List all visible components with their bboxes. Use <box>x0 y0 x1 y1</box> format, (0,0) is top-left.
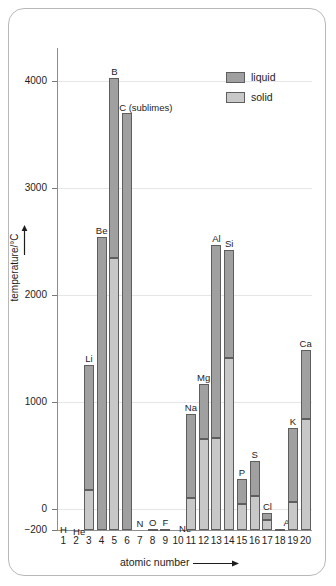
bar-segment-liquid <box>84 365 94 489</box>
bar-label-c: C (sublimes) <box>119 103 189 113</box>
y-axis-arrow-icon <box>21 225 28 255</box>
bar-si[interactable] <box>224 250 234 530</box>
x-axis-label: atomic number <box>120 556 189 568</box>
legend-swatch-solid <box>226 92 245 103</box>
bar-segment-solid <box>211 438 221 530</box>
bar-segment-solid <box>84 490 94 530</box>
y-axis-tick <box>52 402 57 403</box>
bar-segment-liquid <box>122 113 132 530</box>
bar-label-s: S <box>242 450 268 460</box>
gridline <box>57 188 312 189</box>
bar-b[interactable] <box>109 78 119 530</box>
bar-p[interactable] <box>237 479 247 530</box>
bar-s[interactable] <box>250 461 260 530</box>
bar-segment-liquid <box>250 461 260 496</box>
chart-plot-area: temperature/°C atomic number −2000100020… <box>0 0 336 586</box>
y-axis-tick-label: −200 <box>5 525 47 535</box>
bar-segment-solid <box>199 439 209 530</box>
bar-segment-liquid <box>262 513 272 520</box>
y-axis-tick <box>52 81 57 82</box>
bar-ar[interactable] <box>275 529 285 530</box>
y-axis-tick <box>52 509 57 510</box>
bar-li[interactable] <box>84 365 94 530</box>
bar-segment-solid <box>262 520 272 530</box>
bar-segment-liquid <box>97 237 107 530</box>
bar-c[interactable] <box>122 113 132 530</box>
y-axis-tick-label: 3000 <box>5 183 47 193</box>
y-axis-tick-label: 2000 <box>5 290 47 300</box>
bar-be[interactable] <box>97 237 107 530</box>
bar-segment-liquid <box>224 250 234 358</box>
y-axis-tick-label: 0 <box>5 504 47 514</box>
bar-segment-liquid <box>186 414 196 499</box>
legend-label-liquid: liquid <box>251 72 276 83</box>
bar-label-cl: Cl <box>254 502 280 512</box>
y-axis-tick-label: 4000 <box>5 76 47 86</box>
bar-label-ca: Ca <box>293 339 319 349</box>
bar-k[interactable] <box>288 428 298 530</box>
bar-label-b: B <box>101 67 127 77</box>
bar-segment-liquid <box>211 245 221 439</box>
bar-segment-solid <box>237 504 247 530</box>
y-axis-tick <box>52 188 57 189</box>
bar-ca[interactable] <box>301 350 311 530</box>
bar-segment-liquid <box>160 529 170 531</box>
bar-segment-solid <box>186 498 196 530</box>
legend-label-solid: solid <box>251 92 273 103</box>
bar-segment-liquid <box>237 479 247 504</box>
bar-segment-solid <box>275 529 285 531</box>
legend-swatch-liquid <box>226 72 245 83</box>
bar-segment-solid <box>301 419 311 530</box>
y-axis-tick-label: 1000 <box>5 397 47 407</box>
bar-segment-solid <box>109 258 119 530</box>
bar-segment-liquid <box>199 384 209 440</box>
bar-mg[interactable] <box>199 384 209 530</box>
x-axis-label-text: atomic number <box>120 556 189 568</box>
bar-o[interactable] <box>148 529 158 530</box>
bar-al[interactable] <box>211 245 221 530</box>
bar-segment-liquid <box>301 350 311 420</box>
bar-label-si: Si <box>216 239 242 249</box>
bar-segment-liquid <box>288 428 298 503</box>
gridline <box>57 295 312 296</box>
bar-cl[interactable] <box>262 513 272 530</box>
x-tick-20: 20 <box>296 536 316 546</box>
bar-segment-solid <box>288 502 298 530</box>
bar-f[interactable] <box>160 529 170 530</box>
y-axis-tick <box>52 295 57 296</box>
bar-segment-liquid <box>109 78 119 258</box>
y-axis-label: temperature/°C <box>9 208 20 328</box>
bar-segment-liquid <box>148 529 158 531</box>
y-axis-line <box>57 48 58 530</box>
bar-n[interactable] <box>135 530 145 531</box>
x-axis-arrow-icon <box>193 560 239 567</box>
bar-segment-solid <box>224 358 234 530</box>
bar-na[interactable] <box>186 414 196 530</box>
